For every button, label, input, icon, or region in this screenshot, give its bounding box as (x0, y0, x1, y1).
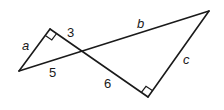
label-5: 5 (49, 65, 56, 80)
label-3: 3 (67, 25, 74, 40)
segment-3-and-6 (50, 29, 148, 97)
right-angle-marker-top (45, 34, 56, 40)
segment-5-and-b (19, 11, 209, 71)
label-6: 6 (104, 76, 111, 91)
label-a: a (22, 38, 29, 53)
label-c: c (183, 52, 190, 67)
two-right-triangles-diagram: a 3 5 6 b c (0, 0, 224, 110)
segment-c (148, 11, 209, 97)
label-b: b (137, 16, 144, 31)
